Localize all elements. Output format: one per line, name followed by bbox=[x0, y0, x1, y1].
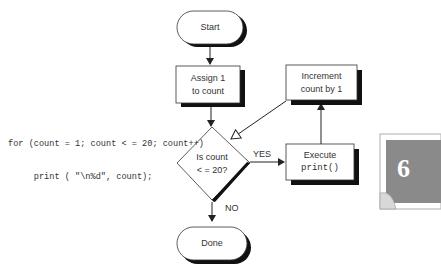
increment-label-line1: Increment bbox=[286, 70, 357, 83]
increment-label: Increment count by 1 bbox=[286, 70, 357, 96]
decision-label-line2: < = 20? bbox=[180, 164, 244, 177]
code-line-for: for (count = 1; count < = 20; count++) bbox=[8, 139, 204, 150]
decision-label: Is count < = 20? bbox=[180, 151, 244, 177]
chapter-number: 6 bbox=[397, 154, 410, 184]
decision-label-line1: Is count bbox=[180, 151, 244, 164]
no-label: NO bbox=[225, 203, 239, 213]
execute-label: Execute print() bbox=[286, 149, 354, 175]
assign-label: Assign 1 to count bbox=[176, 72, 240, 98]
code-snippet: for (count = 1; count < = 20; count++) p… bbox=[8, 117, 204, 194]
code-line-print: print ( "\n%d", count); bbox=[8, 172, 204, 183]
start-label: Start bbox=[177, 21, 243, 34]
chapter-tab bbox=[380, 134, 441, 209]
yes-label: YES bbox=[253, 149, 271, 159]
done-label: Done bbox=[177, 237, 247, 250]
assign-label-line2: to count bbox=[176, 85, 240, 98]
execute-label-line2: print() bbox=[286, 162, 354, 175]
execute-label-line1: Execute bbox=[286, 149, 354, 162]
assign-label-line1: Assign 1 bbox=[176, 72, 240, 85]
increment-label-line2: count by 1 bbox=[286, 83, 357, 96]
